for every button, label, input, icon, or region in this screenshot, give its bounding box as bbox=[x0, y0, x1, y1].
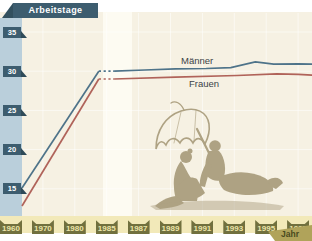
maenner-series-label: Männer bbox=[181, 55, 213, 66]
y-tick-15: 15 bbox=[3, 183, 21, 194]
frauen-series-label: Frauen bbox=[189, 78, 219, 89]
y-tick-20: 20 bbox=[3, 144, 21, 155]
chart-canvas bbox=[0, 0, 312, 241]
y-tick-25: 25 bbox=[3, 105, 21, 116]
vacation-days-chart: Arbeitstage 3530252015 19601970198019851… bbox=[0, 0, 312, 241]
x-axis-title: Jahr bbox=[281, 229, 299, 239]
y-axis-title: Arbeitstage bbox=[29, 5, 83, 15]
y-axis-title-banner: Arbeitstage bbox=[13, 3, 98, 18]
y-tick-30: 30 bbox=[3, 66, 21, 77]
maenner-line bbox=[22, 71, 99, 188]
banner-pennant-icon bbox=[2, 3, 13, 18]
y-tick-35: 35 bbox=[3, 27, 21, 38]
frauen-line bbox=[22, 79, 99, 206]
